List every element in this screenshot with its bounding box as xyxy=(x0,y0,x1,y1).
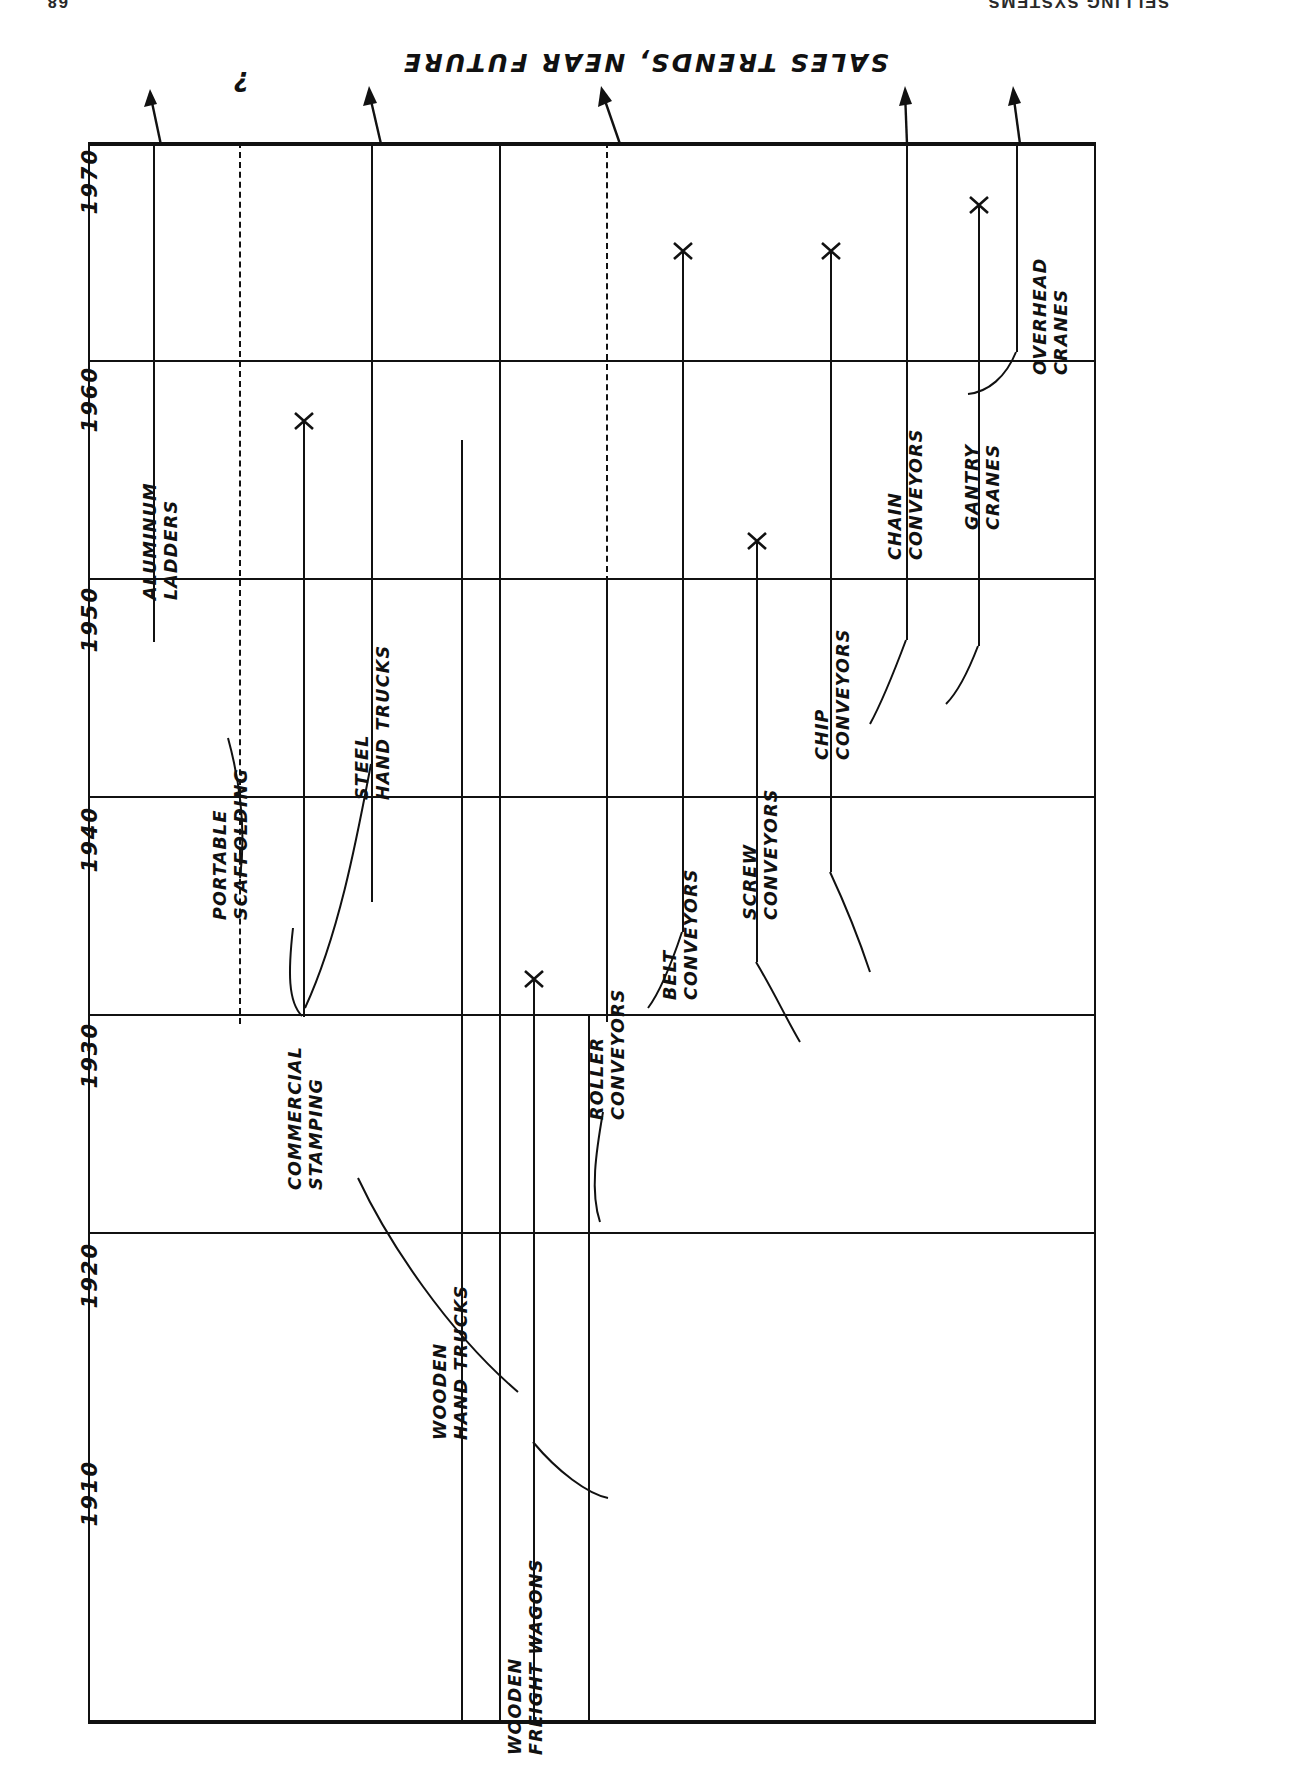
leader-roller-conveyors xyxy=(595,1112,603,1222)
leader-steel-hand-trucks xyxy=(305,764,371,1008)
series-label-line2: CONVEYORS xyxy=(833,628,854,760)
leader-gantry-cranes xyxy=(946,646,978,704)
leader-chain-conveyors xyxy=(870,640,906,724)
stem-gantry-cranes xyxy=(978,206,980,646)
series-label-wooden-freight-wagons: WOODEN FREIGHT WAGONS xyxy=(505,1559,548,1755)
leader-portable-scaffolding xyxy=(290,928,302,1016)
frame-left-edge xyxy=(88,142,90,1722)
stem-belt-conveyors xyxy=(682,252,684,932)
series-label-line1: CHAIN xyxy=(885,492,905,560)
series-label-line2: CRANES xyxy=(983,444,1004,530)
series-label-aluminum-ladders: ALUMINUM LADDERS xyxy=(140,482,183,600)
series-label-line1: BELT xyxy=(660,950,680,1000)
x-cap-chip-conveyors xyxy=(818,238,844,264)
series-label-steel-hand-trucks: STEEL HAND TRUCKS xyxy=(352,645,395,800)
leader-overhead-cranes xyxy=(968,352,1016,394)
stem-roller-conveyors-dashed xyxy=(606,142,608,582)
series-label-chain-conveyors: CHAIN CONVEYORS xyxy=(885,428,928,560)
running-head-page-number: 68 xyxy=(46,0,68,11)
series-label-line1: WOODEN xyxy=(505,1658,525,1755)
gridline-1920 xyxy=(88,1232,1096,1234)
stem-overhead-cranes xyxy=(1016,142,1018,352)
arrow-cap-overhead-cranes xyxy=(1004,84,1030,110)
frame-right-edge xyxy=(1094,142,1096,1722)
leader-screw-conveyors xyxy=(756,962,800,1042)
series-label-roller-conveyors: ROLLER CONVEYORS xyxy=(587,988,630,1120)
running-head-book-title: SELLING SYSTEMS xyxy=(987,0,1169,11)
arrow-cap-chain-conveyors xyxy=(894,84,920,110)
chart-page: 68 SELLING SYSTEMS SALES TRENDS, NEAR FU… xyxy=(0,0,1289,1787)
series-label-line2: SCAFFOLDING xyxy=(231,768,252,920)
question-cap-portable-scaffolding: ? xyxy=(227,64,253,90)
series-label-line2: CRANES xyxy=(1051,258,1072,376)
series-label-line1: COMMERCIAL xyxy=(285,1046,305,1190)
stem-wooden-freight-wagons xyxy=(461,440,463,1722)
stem-chip-conveyors xyxy=(830,252,832,872)
series-label-line1: STEEL xyxy=(352,734,372,800)
plot-area: ? xyxy=(88,142,1096,1722)
arrow-cap-roller-conveyors xyxy=(594,84,620,110)
series-label-line1: ALUMINUM xyxy=(140,482,160,600)
stem-chain-conveyors xyxy=(906,142,908,640)
arrow-cap-aluminum-ladders xyxy=(141,87,167,113)
series-label-line2: HAND TRUCKS xyxy=(451,1285,472,1440)
series-label-line2: STAMPING xyxy=(306,1046,327,1190)
leader-chip-conveyors xyxy=(830,872,870,972)
series-label-line2: CONVEYORS xyxy=(608,988,629,1120)
series-label-line2: CONVEYORS xyxy=(761,788,782,920)
stem-commercial-stamping xyxy=(303,422,305,1017)
series-label-screw-conveyors: SCREW CONVEYORS xyxy=(740,788,783,920)
x-cap-commercial-stamping xyxy=(291,408,317,434)
svg-text:?: ? xyxy=(234,66,249,96)
series-label-line2: HAND TRUCKS xyxy=(373,645,394,800)
series-label-line2: FREIGHT WAGONS xyxy=(526,1559,547,1755)
leader-wooden-hand-trucks xyxy=(533,1442,608,1498)
x-cap-screw-conveyors xyxy=(744,528,770,554)
series-label-chip-conveyors: CHIP CONVEYORS xyxy=(812,628,855,760)
series-label-line1: GANTRY xyxy=(962,444,982,530)
series-label-belt-conveyors: BELT CONVEYORS xyxy=(660,868,703,1000)
series-label-line1: OVERHEAD xyxy=(1030,258,1050,376)
gridline-1910 xyxy=(88,1720,1096,1724)
series-label-line2: LADDERS xyxy=(161,482,182,600)
cell-divider-1 xyxy=(499,142,501,1720)
arrow-cap-steel-hand-trucks xyxy=(359,84,385,110)
chart-title: SALES TRENDS, NEAR FUTURE xyxy=(401,48,888,77)
series-label-wooden-hand-trucks: WOODEN HAND TRUCKS xyxy=(430,1285,473,1440)
series-label-line2: CONVEYORS xyxy=(681,868,702,1000)
series-label-gantry-cranes: GANTRY CRANES xyxy=(962,444,1005,530)
series-label-portable-scaffolding: PORTABLE SCAFFOLDING xyxy=(210,768,253,920)
series-label-line1: ROLLER xyxy=(587,1037,607,1120)
series-label-commercial-stamping: COMMERCIAL STAMPING xyxy=(285,1046,328,1190)
series-label-overhead-cranes: OVERHEAD CRANES xyxy=(1030,258,1073,376)
series-label-line1: WOODEN xyxy=(430,1343,450,1440)
series-label-line1: CHIP xyxy=(812,708,832,760)
stem-roller-conveyors xyxy=(606,582,608,1022)
series-label-line1: PORTABLE xyxy=(210,809,230,920)
series-label-line1: SCREW xyxy=(740,844,760,920)
x-cap-wooden-hand-trucks xyxy=(521,966,547,992)
series-label-line2: CONVEYORS xyxy=(906,428,927,560)
x-cap-belt-conveyors xyxy=(670,238,696,264)
x-cap-gantry-cranes xyxy=(966,192,992,218)
